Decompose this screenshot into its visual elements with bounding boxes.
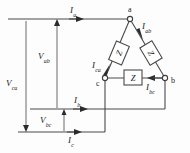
- node-terminal-c: [102, 75, 107, 80]
- current-label-Ibc-sub: bc: [149, 89, 155, 95]
- voltage-label-Vbc: Vbc: [40, 116, 51, 127]
- node-terminal-a: [127, 16, 132, 21]
- voltage-label-Vab-sub: ab: [44, 58, 50, 64]
- node-terminal-b: [162, 75, 167, 80]
- circuit-diagram-figure: Z Z Z: [0, 0, 190, 153]
- impedance-z-ab: Z: [140, 41, 162, 65]
- current-label-Iab: Iab: [142, 22, 151, 33]
- current-label-Ica-sub: ca: [95, 67, 101, 73]
- current-label-Ic: Ic: [68, 136, 74, 147]
- current-label-Ic-sub: c: [71, 142, 74, 148]
- voltage-label-Vab: Vab: [38, 52, 50, 63]
- node-label-c: c: [96, 80, 100, 88]
- voltage-label-Vca-base: V: [6, 78, 12, 88]
- voltage-label-Vca-sub: ca: [12, 85, 18, 91]
- impedance-z-cb-label: Z: [131, 73, 136, 83]
- circuit-schematic-canvas: Z Z Z: [0, 0, 190, 153]
- voltage-arrow-bc: [62, 109, 67, 115]
- voltage-label-Vbc-base: V: [40, 115, 46, 125]
- impedance-z-cb: Z: [124, 70, 142, 85]
- current-label-Ia: Ia: [70, 6, 76, 17]
- impedance-z-ac: Z: [109, 41, 130, 65]
- line-current-arrow-a: [69, 16, 84, 22]
- current-label-Iab-sub: ab: [145, 28, 151, 34]
- current-label-Ia-sub: a: [73, 12, 76, 18]
- voltage-label-Vab-base: V: [38, 51, 44, 61]
- voltage-label-Vbc-sub: bc: [46, 122, 52, 128]
- voltage-arrow-ca: [23, 125, 29, 132]
- current-label-Ib-sub: b: [77, 102, 80, 108]
- current-label-Ibc: Ibc: [146, 83, 155, 94]
- current-label-Ica: Ica: [92, 61, 101, 72]
- voltage-label-Vca: Vca: [6, 79, 17, 90]
- node-label-b: b: [171, 77, 175, 85]
- current-label-Ib: Ib: [74, 96, 80, 107]
- branch-current-arrow-bc: [147, 75, 162, 81]
- voltage-arrow-ab: [54, 19, 60, 26]
- node-label-a: a: [128, 6, 132, 14]
- line-current-arrow-b: [73, 106, 88, 112]
